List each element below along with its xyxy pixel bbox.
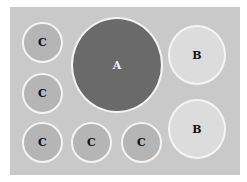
circle-label: B <box>192 124 201 135</box>
circle-label: C <box>137 137 146 148</box>
circle-label: C <box>38 88 47 99</box>
circle-label: C <box>38 137 47 148</box>
circle-a-large: A <box>71 17 163 113</box>
diagram-board: C A B C C C C B <box>10 7 240 175</box>
circle-c-bottom-2: C <box>71 122 112 163</box>
circle-label: A <box>113 60 122 71</box>
circle-b-bottom: B <box>168 99 226 159</box>
circle-c-middle-left: C <box>22 73 63 114</box>
circle-label: B <box>192 50 201 61</box>
circle-b-top: B <box>168 25 226 85</box>
circle-label: C <box>87 137 96 148</box>
circle-c-top-left: C <box>22 22 63 63</box>
circle-label: C <box>38 37 47 48</box>
circle-c-bottom-1: C <box>22 122 63 163</box>
circle-c-bottom-3: C <box>121 122 162 163</box>
